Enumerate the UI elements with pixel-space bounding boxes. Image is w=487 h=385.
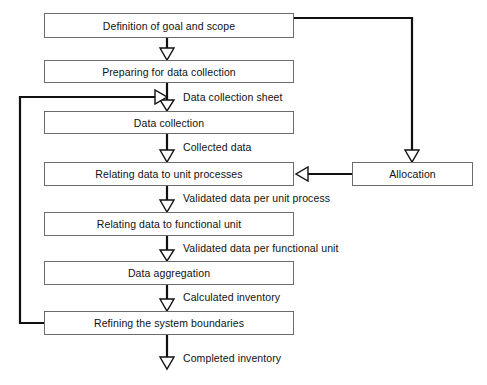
node-label: Relating data to functional unit <box>97 218 241 230</box>
node-label: Data aggregation <box>128 267 210 279</box>
arrowhead-down-preparing <box>160 48 174 60</box>
node-data-aggregation[interactable]: Data aggregation <box>44 261 294 285</box>
edge-label-validated-data-per-functional-unit: Validated data per functional unit <box>183 243 339 254</box>
arrowhead-down-datacollection <box>160 100 174 111</box>
branch-goal-to-allocation <box>294 18 412 150</box>
arrowhead-down-relatingunit <box>160 150 174 162</box>
edge-label-completed-inventory: Completed inventory <box>183 353 281 364</box>
arrowhead-left-relatingunit <box>296 167 308 181</box>
node-preparing-for-data-collection[interactable]: Preparing for data collection <box>44 60 294 83</box>
flowchart-canvas: Definition of goal and scope Preparing f… <box>0 0 487 385</box>
edge-label-collected-data: Collected data <box>183 142 252 153</box>
arrowhead-down-aggregation <box>160 250 174 261</box>
edge-label-data-collection-sheet: Data collection sheet <box>183 92 283 103</box>
node-data-collection[interactable]: Data collection <box>44 111 294 134</box>
arrowhead-down-relatingfunctional <box>160 200 174 212</box>
edge-label-calculated-inventory: Calculated inventory <box>183 292 280 303</box>
arrowhead-down-refining <box>160 299 174 311</box>
node-label: Allocation <box>389 168 436 180</box>
arrowhead-down-completed-inventory <box>160 357 174 369</box>
arrowhead-down-allocation <box>405 150 419 162</box>
edge-goal-to-allocation-path <box>294 18 412 150</box>
node-refining-the-system-boundaries[interactable]: Refining the system boundaries <box>44 311 294 335</box>
node-label: Refining the system boundaries <box>94 317 244 329</box>
node-label: Definition of goal and scope <box>103 20 235 32</box>
node-allocation[interactable]: Allocation <box>352 162 473 186</box>
node-relating-data-to-unit-processes[interactable]: Relating data to unit processes <box>44 162 294 186</box>
node-label: Data collection <box>134 117 204 129</box>
node-definition-of-goal-and-scope[interactable]: Definition of goal and scope <box>44 13 294 38</box>
node-label: Relating data to unit processes <box>95 168 242 180</box>
edge-label-validated-data-per-unit-process: Validated data per unit process <box>183 193 330 204</box>
node-relating-data-to-functional-unit[interactable]: Relating data to functional unit <box>44 212 294 236</box>
node-label: Preparing for data collection <box>102 66 236 78</box>
